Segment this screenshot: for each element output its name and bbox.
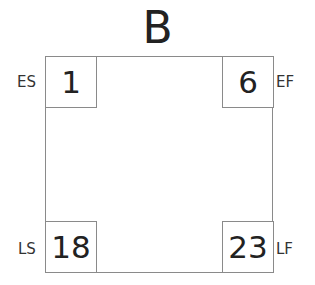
late-start-label: LS [18,240,36,258]
early-finish-label: EF [276,73,294,91]
early-start-label: ES [17,73,36,91]
late-finish-value: 23 [222,221,274,273]
early-finish-value: 6 [222,56,274,108]
late-start-value: 18 [45,221,97,273]
late-finish-label: LF [276,240,293,258]
activity-name: B [0,2,315,54]
early-start-value: 1 [45,56,97,108]
